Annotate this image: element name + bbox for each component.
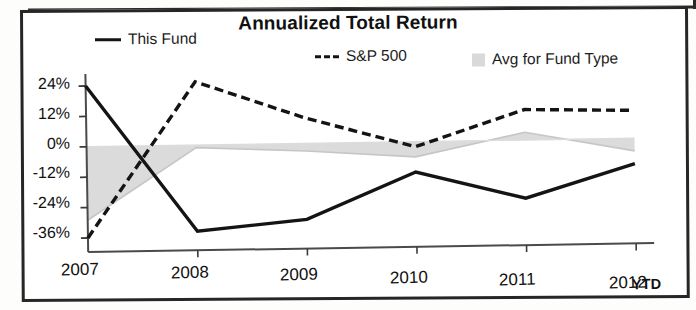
y-axis-line	[85, 74, 88, 252]
y-axis-tick-label: 12%	[12, 104, 70, 123]
avg-fund-type-fill	[86, 131, 635, 221]
x-axis-tick-label: 2010	[390, 267, 428, 288]
ytd-label: YTD	[632, 276, 661, 293]
y-axis-tick-label: -12%	[12, 164, 70, 183]
x-axis-tick-label: 2009	[280, 265, 318, 286]
x-axis-tick-label: 2007	[61, 260, 99, 281]
plot-canvas	[0, 0, 696, 310]
chart-figure: Annualized Total Return This Fund S&P 50…	[0, 0, 696, 310]
x-axis-line	[88, 243, 654, 252]
y-axis-tick-label: -24%	[12, 194, 70, 213]
y-axis-tick-label: 24%	[12, 75, 70, 94]
x-axis-tick-label: 2008	[170, 262, 208, 283]
y-axis-tick-label: -36%	[12, 224, 70, 243]
avg-fund-type-area	[86, 131, 635, 221]
x-axis-tick-label: 2011	[499, 270, 536, 291]
y-axis-tick-label: 0%	[12, 134, 70, 153]
